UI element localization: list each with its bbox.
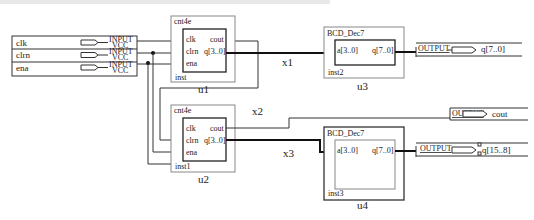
input-name: clrn xyxy=(16,50,30,60)
bus-handle-icon xyxy=(478,143,481,146)
component-u4[interactable]: BCD_Dec7 a[3..0] q[7..0] inst3 u4 xyxy=(324,127,404,211)
input-pins: clk INPUT VCC clrn INPUT VCC ena INPUT V… xyxy=(12,35,137,76)
port-cout: cout xyxy=(210,124,225,133)
output-name: q[15..8] xyxy=(482,145,511,155)
port-q: q[3..0] xyxy=(204,47,226,56)
output-name: q[7..0] xyxy=(481,44,505,54)
component-u3[interactable]: BCD_Dec7 a[3..0] q[7..0] inst2 u3 xyxy=(324,27,404,92)
component-type: cnt4e xyxy=(174,17,192,26)
net-label-x2: x2 xyxy=(252,105,263,117)
input-name: ena xyxy=(16,63,29,73)
port-q: q[7..0] xyxy=(372,146,394,155)
port-q: q[7..0] xyxy=(372,46,394,55)
port-clrn: clrn xyxy=(186,136,198,145)
net-label-x1: x1 xyxy=(282,56,293,68)
output-pin-cout[interactable]: OUTPUT cout xyxy=(450,108,528,120)
component-type: BCD_Dec7 xyxy=(327,29,364,38)
input-arrow-icon xyxy=(81,53,98,58)
component-label: u4 xyxy=(357,199,369,211)
output-pin-q15-8[interactable]: OUTPUT q[15..8] xyxy=(416,143,528,156)
schematic-diagram: clk INPUT VCC clrn INPUT VCC ena INPUT V… xyxy=(0,0,534,220)
output-pin-q7-0[interactable]: OUTPUT q[7..0] xyxy=(416,43,522,56)
output-name: cout xyxy=(492,109,508,119)
component-u2[interactable]: cnt4e clk clrn ena cout q[3..0] inst1 u2 xyxy=(171,105,235,185)
bus-handle-icon xyxy=(478,152,481,155)
instance-name: inst2 xyxy=(328,68,344,77)
instance-name: inst xyxy=(175,73,187,82)
net-label-x3: x3 xyxy=(283,147,295,159)
component-label: u2 xyxy=(198,173,209,185)
input-supply: VCC xyxy=(112,66,128,75)
component-label: u3 xyxy=(357,80,369,92)
input-arrow-icon xyxy=(81,65,98,70)
component-type: cnt4e xyxy=(174,106,192,115)
output-kind: OUTPUT xyxy=(418,44,450,53)
output-arrow-icon xyxy=(452,47,476,53)
port-clk: clk xyxy=(186,124,196,133)
port-cout: cout xyxy=(210,35,225,44)
component-type: BCD_Dec7 xyxy=(327,129,364,138)
header-fragment xyxy=(0,0,330,4)
bus-x3 xyxy=(226,140,337,152)
output-arrow-icon xyxy=(463,111,487,117)
port-clk: clk xyxy=(186,35,196,44)
port-a: a[3..0] xyxy=(337,146,358,155)
output-kind: OUTPUT xyxy=(420,144,452,153)
component-label: u1 xyxy=(198,83,209,95)
input-name: clk xyxy=(16,38,27,48)
input-arrow-icon xyxy=(81,40,98,45)
port-q: q[3..0] xyxy=(204,136,226,145)
instance-name: inst1 xyxy=(175,162,191,171)
component-u1[interactable]: cnt4e clk clrn ena cout q[3..0] inst u1 xyxy=(171,16,235,95)
port-a: a[3..0] xyxy=(337,46,358,55)
port-ena: ena xyxy=(186,59,198,68)
port-ena: ena xyxy=(186,148,198,157)
output-arrow-icon xyxy=(452,147,476,153)
instance-name: inst3 xyxy=(328,189,344,198)
port-clrn: clrn xyxy=(186,47,198,56)
